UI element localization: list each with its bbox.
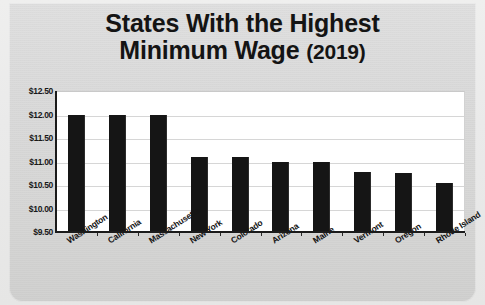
chart-page: States With the Highest Minimum Wage (20…: [0, 0, 485, 305]
chart-title: States With the Highest Minimum Wage (20…: [9, 10, 476, 63]
bar: [109, 115, 126, 233]
bar: [68, 115, 85, 233]
y-axis-tick-label: $11.50: [29, 133, 53, 143]
x-axis-labels: WashingtonCaliforniaMassachusettsNew Yor…: [56, 237, 465, 299]
x-axis-tick: [301, 233, 302, 236]
bar: [436, 183, 453, 232]
chart-title-line-2: Minimum Wage (2019): [9, 37, 476, 64]
bar: [395, 173, 412, 232]
y-axis-line: [55, 91, 57, 233]
bar: [313, 162, 330, 233]
chart-title-year: (2019): [306, 40, 366, 63]
x-axis-tick: [97, 233, 98, 236]
x-axis-tick: [220, 233, 221, 236]
chart-title-line-1: States With the Highest: [9, 10, 476, 37]
x-axis-tick: [383, 233, 384, 236]
y-axis: $12.50$12.00$11.50$11.00$10.50$10.00$9.5…: [9, 87, 56, 235]
x-axis-tick: [342, 233, 343, 236]
y-axis-tick-label: $10.50: [29, 180, 53, 190]
y-axis-tick-label: $11.00: [29, 157, 53, 167]
plot-area: [56, 91, 465, 232]
y-axis-tick-label: $12.50: [29, 86, 53, 96]
y-axis-tick-label: $10.00: [29, 204, 53, 214]
chart-card: States With the Highest Minimum Wage (20…: [9, 3, 476, 302]
bar: [232, 157, 249, 232]
y-axis-tick-label: $9.50: [33, 227, 53, 237]
y-axis-tick-label: $12.00: [29, 110, 53, 120]
x-axis-tick: [465, 233, 466, 236]
bar: [354, 172, 371, 232]
bar: [191, 157, 208, 232]
x-axis-tick: [424, 233, 425, 236]
bar: [272, 162, 289, 233]
bar: [150, 115, 167, 233]
x-axis-tick: [138, 233, 139, 236]
x-axis-tick: [179, 233, 180, 236]
x-axis-tick: [261, 233, 262, 236]
chart-plot-region: $12.50$12.00$11.50$11.00$10.50$10.00$9.5…: [9, 87, 476, 302]
chart-title-main: Minimum Wage: [119, 36, 299, 64]
bar-series: [56, 92, 464, 232]
